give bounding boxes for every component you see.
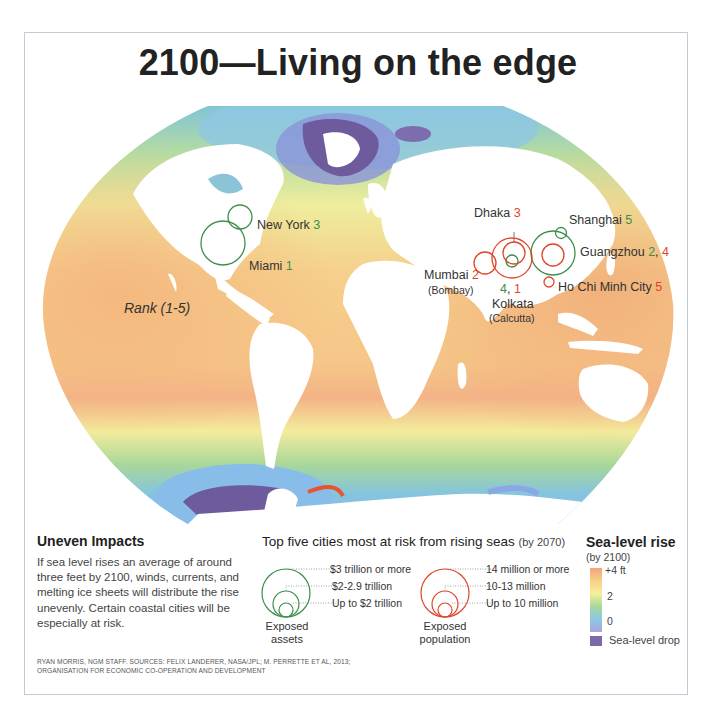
city-label-ho-chi-minh-city: Ho Chi Minh City 5 (558, 280, 662, 294)
city-alt-kolkata: (Calcutta) (489, 312, 535, 324)
sea-level-subheading: (by 2100) (586, 551, 630, 563)
population-level-2: 10-13 million (486, 580, 546, 592)
scale-tick-top: +4 ft (605, 564, 626, 576)
assets-level-1: $3 trillion or more (330, 563, 411, 575)
top5-heading: Top five cities most at risk from rising… (262, 534, 565, 549)
city-label-kolkata: Kolkata (492, 297, 534, 311)
city-alt-mumbai: (Bombay) (428, 284, 474, 296)
sea-level-drop-swatch (590, 636, 602, 646)
assets-caption: Exposedassets (262, 620, 312, 646)
credit-line: RYAN MORRIS, NGM STAFF. SOURCES: FELIX L… (37, 657, 350, 675)
impacts-body: If sea level rises an average of around … (37, 555, 247, 631)
city-label-new-york: New York 3 (257, 218, 320, 232)
rank-label: Rank (1-5) (124, 300, 190, 316)
assets-level-3: Up to $2 trillion (332, 597, 402, 609)
impacts-heading: Uneven Impacts (37, 533, 144, 549)
city-label-guangzhou: Guangzhou 2, 4 (580, 245, 669, 259)
city-label-dhaka: Dhaka 3 (474, 206, 521, 220)
sea-level-color-scale (590, 568, 602, 632)
city-rank-kolkata: 4, 1 (500, 282, 521, 296)
sea-level-drop-label: Sea-level drop (609, 634, 680, 646)
population-caption: Exposedpopulation (413, 620, 477, 646)
assets-level-2: $2-2.9 trillion (332, 580, 392, 592)
population-level-3: Up to 10 million (486, 597, 558, 609)
city-label-mumbai: Mumbai 2 (424, 268, 479, 282)
scale-tick-mid: 2 (607, 590, 613, 602)
city-label-shanghai: Shanghai 5 (569, 213, 632, 227)
sea-level-heading: Sea-level rise (586, 534, 676, 550)
scale-tick-bottom: 0 (607, 615, 613, 627)
page-title: 2100—Living on the edge (0, 42, 716, 84)
city-label-miami: Miami 1 (249, 259, 293, 273)
population-level-1: 14 million or more (486, 563, 569, 575)
